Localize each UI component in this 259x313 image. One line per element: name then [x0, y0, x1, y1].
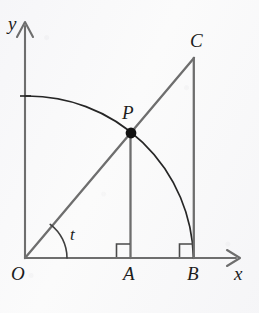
label-origin: O — [11, 264, 25, 283]
label-point-c: C — [190, 31, 203, 50]
point-p-dot — [126, 128, 137, 139]
right-angle-marker-b — [180, 244, 194, 257]
angle-arc-t — [50, 224, 67, 258]
segment-oc — [25, 58, 194, 258]
label-x-axis: x — [234, 264, 242, 283]
label-point-p: P — [122, 103, 134, 122]
label-angle-t: t — [70, 226, 75, 243]
right-angle-marker-a — [117, 244, 131, 257]
label-point-a: A — [123, 264, 135, 283]
diagram-canvas: y x O A B C P t — [0, 0, 259, 313]
label-y-axis: y — [8, 14, 16, 33]
quarter-arc — [25, 96, 194, 258]
label-point-b: B — [187, 264, 199, 283]
